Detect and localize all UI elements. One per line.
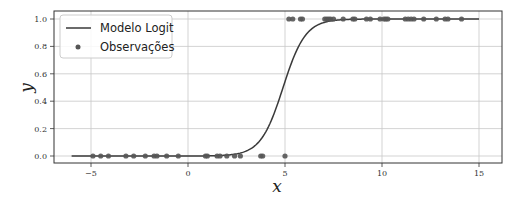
observation-point <box>98 153 103 158</box>
legend-label-model: Modelo Logit <box>100 21 174 35</box>
observation-point <box>238 153 243 158</box>
y-tick-label: 1.0 <box>34 15 47 24</box>
x-axis-label: x <box>272 176 282 196</box>
y-tick-label: 0.0 <box>34 152 47 161</box>
y-axis-label: y <box>16 83 36 94</box>
y-tick-label: 0.4 <box>34 97 47 106</box>
y-axis-ticks: 0.00.20.40.60.81.0 <box>34 15 54 161</box>
legend-dot-icon <box>76 45 81 50</box>
observation-point <box>300 16 305 21</box>
observation-point <box>352 16 357 21</box>
observation-point <box>154 153 159 158</box>
x-tick-label: 5 <box>282 169 287 178</box>
x-tick-label: 10 <box>377 169 387 178</box>
observation-point <box>260 153 265 158</box>
observation-point <box>164 153 169 158</box>
observation-point <box>131 153 136 158</box>
legend: Modelo Logit Observações <box>60 15 174 58</box>
legend-label-observations: Observações <box>100 40 174 54</box>
observation-point <box>205 153 210 158</box>
observation-point <box>421 16 426 21</box>
x-axis-ticks: −5051015 <box>85 163 484 178</box>
observation-point <box>176 153 181 158</box>
observation-point <box>434 16 439 21</box>
observation-point <box>331 16 336 21</box>
observation-point <box>123 153 128 158</box>
observation-point <box>232 153 237 158</box>
observation-point <box>385 16 390 21</box>
observation-point <box>282 153 287 158</box>
observation-point <box>445 16 450 21</box>
observation-point <box>368 16 373 21</box>
observation-point <box>459 16 464 21</box>
observation-point <box>411 16 416 21</box>
x-tick-label: 15 <box>474 169 484 178</box>
x-tick-label: 0 <box>185 169 190 178</box>
observation-point <box>217 153 222 158</box>
x-tick-label: −5 <box>85 169 97 178</box>
y-tick-label: 0.6 <box>34 70 47 79</box>
observation-point <box>90 153 95 158</box>
logit-chart: −5051015 0.00.20.40.60.81.0 x y Modelo L… <box>0 0 525 206</box>
y-tick-label: 0.2 <box>34 125 47 134</box>
y-tick-label: 0.8 <box>34 42 47 51</box>
observation-point <box>143 153 148 158</box>
observation-point <box>224 153 229 158</box>
observation-point <box>106 153 111 158</box>
observation-point <box>290 16 295 21</box>
observation-point <box>341 16 346 21</box>
